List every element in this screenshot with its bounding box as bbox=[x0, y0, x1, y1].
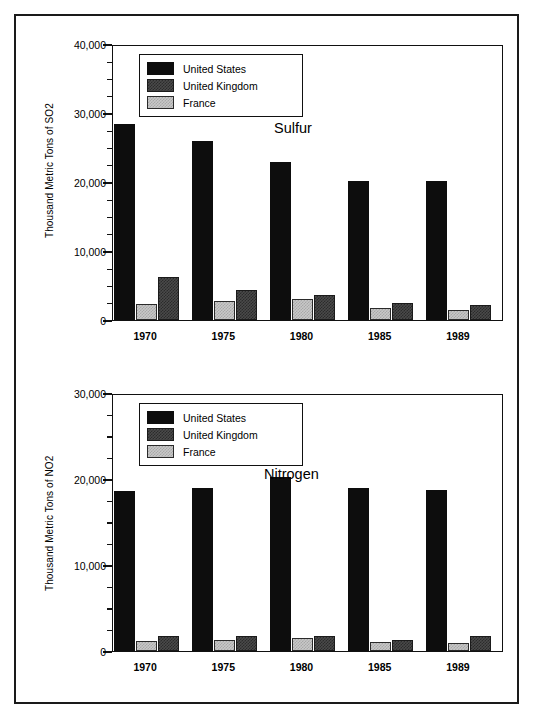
bar-us-1980 bbox=[270, 162, 291, 320]
chart-sulfur: Thousand Metric Tons of SO2 010,00020,00… bbox=[16, 16, 517, 361]
y-tick-label: 10,000 bbox=[74, 246, 106, 258]
bar-fr-1980 bbox=[292, 638, 313, 651]
x-tick-label-1989: 1989 bbox=[446, 661, 469, 673]
legend-swatch-us-icon bbox=[147, 411, 174, 424]
chart-nitrogen: Thousand Metric Tons of NO2 010,00020,00… bbox=[16, 368, 517, 703]
x-tick-label-1989: 1989 bbox=[446, 330, 469, 342]
legend-item-us-nitrogen: United States bbox=[147, 409, 293, 426]
legend-swatch-fr-icon bbox=[147, 96, 174, 109]
chart-title-nitrogen: Nitrogen bbox=[264, 466, 319, 482]
bar-uk-1980 bbox=[314, 295, 335, 320]
bar-fr-1989 bbox=[448, 643, 469, 651]
x-tick-label-1980: 1980 bbox=[290, 330, 313, 342]
legend-label-us: United States bbox=[183, 63, 246, 75]
figure-page: Thousand Metric Tons of SO2 010,00020,00… bbox=[0, 0, 539, 719]
bar-us-1975 bbox=[192, 141, 213, 320]
bar-us-1989 bbox=[426, 490, 447, 651]
legend-item-uk-nitrogen: United Kingdom bbox=[147, 426, 293, 443]
x-tick-label-1975: 1975 bbox=[212, 661, 235, 673]
legend-item-uk-sulfur: United Kingdom bbox=[147, 77, 293, 94]
legend-item-fr-sulfur: France bbox=[147, 94, 293, 111]
bar-uk-1989 bbox=[470, 305, 491, 320]
bar-us-1970 bbox=[114, 124, 135, 320]
y-tick-label: 30,000 bbox=[74, 108, 106, 120]
y-tick-label: 20,000 bbox=[74, 474, 106, 486]
y-tick-label: 0 bbox=[100, 646, 106, 658]
x-tick-label-1980: 1980 bbox=[290, 661, 313, 673]
bar-uk-1970 bbox=[158, 277, 179, 320]
x-tick-label-1985: 1985 bbox=[368, 661, 391, 673]
bar-fr-1970 bbox=[136, 641, 157, 651]
bar-fr-1989 bbox=[448, 310, 469, 320]
legend-label-fr: France bbox=[183, 97, 216, 109]
bar-us-1980 bbox=[270, 477, 291, 651]
legend-label-uk: United Kingdom bbox=[183, 429, 258, 441]
y-tick-label: 40,000 bbox=[74, 39, 106, 51]
chart-title-sulfur: Sulfur bbox=[274, 120, 312, 136]
bar-uk-1970 bbox=[158, 636, 179, 651]
legend-sulfur: United StatesUnited KingdomFrance bbox=[139, 54, 303, 117]
bar-fr-1980 bbox=[292, 299, 313, 320]
y-axis-title-nitrogen: Thousand Metric Tons of NO2 bbox=[44, 398, 58, 648]
x-tick-label-1975: 1975 bbox=[212, 330, 235, 342]
legend-item-fr-nitrogen: France bbox=[147, 443, 293, 460]
x-tick-label-1985: 1985 bbox=[368, 330, 391, 342]
bar-uk-1980 bbox=[314, 636, 335, 651]
figure-frame: Thousand Metric Tons of SO2 010,00020,00… bbox=[14, 14, 519, 704]
x-tick-label-1970: 1970 bbox=[133, 330, 156, 342]
y-tick-label: 0 bbox=[100, 315, 106, 327]
legend-label-us: United States bbox=[183, 412, 246, 424]
bar-fr-1975 bbox=[214, 640, 235, 651]
bar-us-1985 bbox=[348, 488, 369, 651]
bar-uk-1989 bbox=[470, 636, 491, 651]
legend-label-fr: France bbox=[183, 446, 216, 458]
legend-item-us-sulfur: United States bbox=[147, 60, 293, 77]
bar-us-1975 bbox=[192, 488, 213, 651]
bar-us-1989 bbox=[426, 181, 447, 320]
legend-nitrogen: United StatesUnited KingdomFrance bbox=[139, 403, 303, 466]
bar-uk-1985 bbox=[392, 303, 413, 320]
y-tick-label: 20,000 bbox=[74, 177, 106, 189]
legend-label-uk: United Kingdom bbox=[183, 80, 258, 92]
bar-fr-1970 bbox=[136, 304, 157, 320]
legend-swatch-fr-icon bbox=[147, 445, 174, 458]
y-tick-label: 10,000 bbox=[74, 560, 106, 572]
y-axis-title-sulfur: Thousand Metric Tons of SO2 bbox=[44, 46, 58, 296]
bar-us-1985 bbox=[348, 181, 369, 320]
bar-fr-1985 bbox=[370, 308, 391, 320]
bar-uk-1975 bbox=[236, 636, 257, 651]
legend-swatch-uk-icon bbox=[147, 79, 174, 92]
y-tick-label: 30,000 bbox=[74, 388, 106, 400]
legend-swatch-uk-icon bbox=[147, 428, 174, 441]
bar-fr-1975 bbox=[214, 301, 235, 320]
legend-swatch-us-icon bbox=[147, 62, 174, 75]
bar-fr-1985 bbox=[370, 642, 391, 651]
x-tick-label-1970: 1970 bbox=[133, 661, 156, 673]
bar-uk-1975 bbox=[236, 290, 257, 320]
bar-us-1970 bbox=[114, 491, 135, 651]
bar-uk-1985 bbox=[392, 640, 413, 651]
